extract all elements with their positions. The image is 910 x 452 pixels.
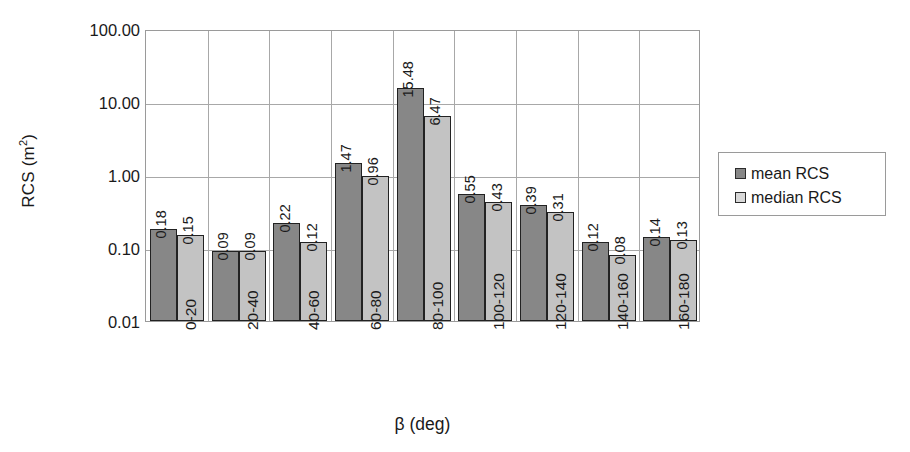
bar-value-label: 0.22 [277,204,292,232]
bar-value-label: 0.96 [366,158,381,186]
y-axis-title-superscript: 2 [17,140,29,146]
bar-value-label: 0.09 [243,233,258,261]
bar-value-label: 15.48 [401,61,416,97]
bar [150,229,177,321]
vertical-gridline [269,31,270,321]
bar-value-label: 0.43 [489,183,504,211]
x-axis-tick-label: 100-120 [491,273,507,330]
bar-value-label: 0.18 [154,211,169,239]
bar-value-label: 0.12 [304,223,319,251]
bar [335,163,362,321]
y-axis-title-base: RCS (m [19,146,38,208]
bar-value-label: 0.14 [647,219,662,247]
y-axis-tick-label: 1.00 [62,168,140,185]
x-axis-title: β (deg) [145,414,700,435]
vertical-gridline [208,31,209,321]
x-axis-tick-label: 20-40 [245,290,261,330]
x-axis-tick-label: 80-100 [430,282,446,330]
x-axis-tick-label: 160-180 [676,273,692,330]
bar-value-label: 0.55 [462,175,477,203]
y-axis-tick-labels: 100.0010.001.000.100.01 [58,0,140,452]
bar [273,223,300,321]
vertical-gridline [639,31,640,321]
legend: mean RCSmedian RCS [718,152,886,216]
vertical-gridline [454,31,455,321]
legend-swatch-icon [735,192,746,203]
vertical-gridline [331,31,332,321]
bar-value-label: 0.08 [613,236,628,264]
bar [582,242,609,321]
legend-item[interactable]: median RCS [735,186,885,209]
y-axis-title: RCS (m2) [17,91,39,251]
bar-value-label: 0.31 [551,193,566,221]
bar [212,251,239,321]
bar-value-label: 0.15 [181,216,196,244]
legend-item-label: mean RCS [751,166,829,182]
x-axis-tick-label: 60-80 [368,290,384,330]
bar-value-label: 0.09 [216,233,231,261]
bar-value-label: 0.13 [674,221,689,249]
bar-value-label: 0.12 [586,223,601,251]
x-axis-tick-label: 120-140 [553,273,569,330]
bar-value-label: 0.39 [524,186,539,214]
x-axis-tick-label: 40-60 [306,290,322,330]
legend-item[interactable]: mean RCS [735,162,885,185]
x-axis-tick-label: 140-160 [615,273,631,330]
legend-swatch-icon [735,168,746,179]
y-axis-tick-label: 0.10 [62,241,140,258]
vertical-gridline [516,31,517,321]
y-axis-tick-label: 0.01 [62,314,140,331]
bar-value-label: 6.47 [428,97,443,125]
y-axis-tick-label: 10.00 [62,95,140,112]
x-axis-tick-label: 0-20 [183,299,199,330]
y-axis-title-tail: ) [19,134,38,140]
legend-item-label: median RCS [751,190,842,206]
bar [458,194,485,321]
bar [397,88,424,321]
rcs-bar-chart: RCS (m2) 100.0010.001.000.100.01 0-2020-… [0,0,910,452]
bar-value-label: 1.47 [339,144,354,172]
y-axis-tick-label: 100.00 [62,22,140,39]
vertical-gridline [393,31,394,321]
bar [520,205,547,321]
bar [643,237,670,321]
vertical-gridline [578,31,579,321]
